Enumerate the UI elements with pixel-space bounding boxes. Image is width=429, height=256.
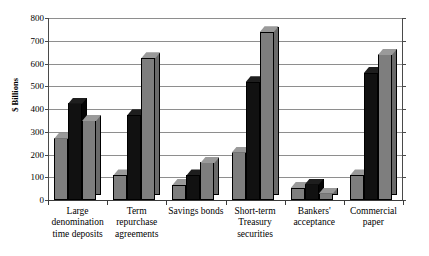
bar-side-face bbox=[214, 157, 219, 195]
bar-front-face bbox=[305, 184, 319, 200]
bar-front-face bbox=[319, 193, 333, 200]
category-separator bbox=[285, 200, 286, 205]
bar bbox=[172, 185, 186, 200]
y-tick-label-300: 300 bbox=[18, 127, 44, 136]
bar-front-face bbox=[246, 82, 260, 200]
category-separator bbox=[166, 200, 167, 205]
x-axis-label: Savings bonds bbox=[166, 206, 225, 217]
tick-mark-right-400 bbox=[402, 109, 406, 110]
bar-front-face bbox=[54, 138, 68, 200]
bar-side-face bbox=[96, 115, 101, 195]
category-separator bbox=[344, 200, 345, 205]
bar-side-face bbox=[392, 49, 397, 195]
bar-side-face bbox=[274, 27, 279, 195]
bar-front-face bbox=[364, 73, 378, 200]
bar bbox=[378, 54, 392, 200]
bar-front-face bbox=[350, 175, 364, 200]
bar bbox=[127, 115, 141, 200]
bar-front-face bbox=[68, 103, 82, 200]
bar bbox=[186, 175, 200, 200]
bar bbox=[113, 175, 127, 200]
tick-mark-right-300 bbox=[402, 132, 406, 133]
tick-mark-right-800 bbox=[402, 18, 406, 19]
x-axis-label: Term repurchase agreements bbox=[107, 206, 166, 240]
tick-mark-right-600 bbox=[402, 64, 406, 65]
category-separator bbox=[226, 200, 227, 205]
bar bbox=[350, 175, 364, 200]
x-axis-label: Bankers' acceptance bbox=[285, 206, 344, 229]
bar bbox=[364, 73, 378, 200]
bar-front-face bbox=[186, 175, 200, 200]
y-tick-label-400: 400 bbox=[18, 105, 44, 114]
y-tick-label-700: 700 bbox=[18, 36, 44, 45]
bar bbox=[54, 138, 68, 200]
bar-chart: $ Billions 0100200300400500600700800 Lar… bbox=[0, 0, 429, 256]
y-tick-label-200: 200 bbox=[18, 150, 44, 159]
tick-mark-right-200 bbox=[402, 155, 406, 156]
bar bbox=[82, 120, 96, 200]
bar-front-face bbox=[141, 58, 155, 200]
bar-group bbox=[350, 18, 397, 200]
bar bbox=[291, 188, 305, 201]
axis-end-tick bbox=[48, 200, 49, 205]
bar bbox=[319, 193, 333, 200]
category-separator bbox=[107, 200, 108, 205]
y-axis-tick-labels: 0100200300400500600700800 bbox=[14, 0, 44, 256]
y-tick-label-800: 800 bbox=[18, 14, 44, 23]
x-axis-label: Large denomination time deposits bbox=[48, 206, 107, 240]
bar-side-face bbox=[155, 53, 160, 195]
bar-group bbox=[232, 18, 279, 200]
bar bbox=[246, 82, 260, 200]
bar bbox=[305, 184, 319, 200]
bar-group bbox=[291, 18, 338, 200]
tick-mark-right-100 bbox=[402, 177, 406, 178]
bar bbox=[232, 152, 246, 200]
axis-end-tick bbox=[403, 200, 404, 205]
bar bbox=[141, 58, 155, 200]
bar-group bbox=[54, 18, 101, 200]
bar bbox=[260, 32, 274, 200]
bar-front-face bbox=[172, 185, 186, 200]
bar-front-face bbox=[200, 162, 214, 200]
bar-front-face bbox=[232, 152, 246, 200]
plot-area bbox=[48, 18, 403, 200]
y-tick-label-600: 600 bbox=[18, 59, 44, 68]
y-tick-label-0: 0 bbox=[18, 196, 44, 205]
x-axis-label: Short-term Treasury securities bbox=[226, 206, 285, 240]
bar-group bbox=[172, 18, 219, 200]
bar-front-face bbox=[378, 54, 392, 200]
y-tick-label-500: 500 bbox=[18, 82, 44, 91]
bar-front-face bbox=[113, 175, 127, 200]
bar bbox=[68, 103, 82, 200]
x-axis-label: Commercial paper bbox=[344, 206, 403, 229]
tick-mark-right-500 bbox=[402, 86, 406, 87]
tick-mark-right-700 bbox=[402, 41, 406, 42]
y-tick-label-100: 100 bbox=[18, 173, 44, 182]
bar-front-face bbox=[291, 188, 305, 201]
bar bbox=[200, 162, 214, 200]
bar-group bbox=[113, 18, 160, 200]
bar-front-face bbox=[260, 32, 274, 200]
bar-front-face bbox=[82, 120, 96, 200]
bar-front-face bbox=[127, 115, 141, 200]
bar-series-layer bbox=[49, 18, 402, 200]
